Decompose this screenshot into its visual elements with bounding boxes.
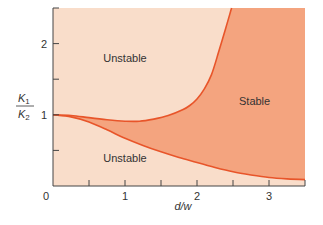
y-label-denominator: K2 xyxy=(18,108,30,122)
x-tick-label: 1 xyxy=(122,190,128,202)
y-axis-label: K1 K2 xyxy=(16,92,34,122)
x-tick-label: 3 xyxy=(266,190,272,202)
stability-chart: 012312 Unstable Stable Unstable d/w K1 K… xyxy=(0,0,323,225)
region-label-unstable-upper: Unstable xyxy=(103,52,146,64)
y-tick-label: 1 xyxy=(41,109,47,121)
region-label-unstable-lower: Unstable xyxy=(103,152,146,164)
x-tick-label: 0 xyxy=(43,190,49,202)
x-tick-label: 2 xyxy=(194,190,200,202)
x-axis-label: d/w xyxy=(174,200,192,212)
y-tick-label: 2 xyxy=(41,38,47,50)
region-label-stable: Stable xyxy=(239,95,270,107)
y-label-numerator: K1 xyxy=(18,92,30,106)
